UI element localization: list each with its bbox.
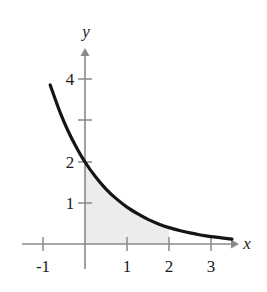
y-tick-label-4: 4 (66, 70, 75, 89)
exponential-curve (50, 85, 232, 239)
x-axis-arrow-icon (231, 240, 239, 249)
plot-svg: -1 1 2 3 1 2 4 x y (0, 0, 267, 292)
y-tick-label-1: 1 (66, 194, 75, 213)
shaded-region-under-curve (85, 162, 169, 244)
y-axis-label: y (80, 22, 90, 41)
x-axis-label: x (242, 234, 251, 253)
y-axis-arrow-icon (81, 48, 90, 56)
y-tick-label-2: 2 (66, 153, 75, 172)
x-tick-label--1: -1 (36, 257, 50, 276)
x-tick-label-2: 2 (165, 257, 174, 276)
exponential-decay-figure: -1 1 2 3 1 2 4 x y (0, 0, 267, 292)
x-tick-label-1: 1 (123, 257, 132, 276)
x-tick-label-3: 3 (207, 257, 216, 276)
